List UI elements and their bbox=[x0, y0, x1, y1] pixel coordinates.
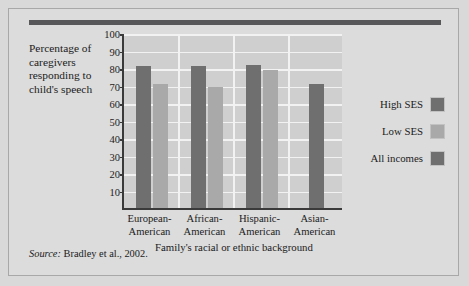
plot-area-wrapper: 102030405060708090100 bbox=[122, 35, 342, 210]
y-axis-tick-label: 20 bbox=[110, 170, 121, 181]
bar bbox=[153, 84, 168, 208]
source-prefix: Source: bbox=[29, 248, 61, 259]
bar bbox=[136, 66, 151, 208]
y-axis-tick-label: 40 bbox=[110, 135, 121, 146]
bar-group bbox=[179, 35, 234, 208]
figure-panel: Percentage of caregivers responding to c… bbox=[8, 8, 459, 276]
x-axis-category-label: Asian-American bbox=[284, 213, 346, 238]
y-axis-tick-label: 90 bbox=[110, 47, 121, 58]
legend-swatch bbox=[430, 97, 445, 112]
bar bbox=[191, 66, 206, 208]
y-axis-label: Percentage of caregivers responding to c… bbox=[29, 42, 115, 96]
y-axis-tick-label: 60 bbox=[110, 100, 121, 111]
y-axis-tick-label: 70 bbox=[110, 82, 121, 93]
bar bbox=[309, 84, 324, 208]
legend-label: Low SES bbox=[382, 125, 423, 137]
bar bbox=[263, 70, 278, 208]
source-citation: Bradley et al., 2002. bbox=[64, 248, 148, 259]
x-axis-category-labels: European-AmericanAfrican-AmericanHispani… bbox=[122, 213, 346, 241]
legend-label: All incomes bbox=[371, 152, 423, 164]
y-axis-tick-label: 30 bbox=[110, 152, 121, 163]
legend-label: High SES bbox=[380, 98, 423, 110]
legend-swatch bbox=[430, 124, 445, 139]
x-axis-category-label: European-American bbox=[119, 213, 181, 238]
y-axis-tick-label: 50 bbox=[110, 117, 121, 128]
category-label-line: Asian- bbox=[284, 213, 346, 226]
category-label-line: American bbox=[119, 226, 181, 239]
legend-item: Low SES bbox=[361, 120, 445, 142]
category-label-line: American bbox=[284, 226, 346, 239]
category-label-line: African- bbox=[174, 213, 236, 226]
legend-swatch bbox=[430, 151, 445, 166]
y-axis-tick-label: 10 bbox=[110, 187, 121, 198]
y-axis-tick-label: 80 bbox=[110, 65, 121, 76]
top-rule-divider bbox=[29, 20, 441, 25]
bar-group bbox=[289, 35, 344, 208]
legend-item: All incomes bbox=[361, 147, 445, 169]
x-axis-category-label: Hispanic-American bbox=[229, 213, 291, 238]
bar-group bbox=[234, 35, 289, 208]
category-label-line: European- bbox=[119, 213, 181, 226]
bar bbox=[208, 87, 223, 208]
legend-item: High SES bbox=[361, 93, 445, 115]
plot-area: 102030405060708090100 bbox=[122, 35, 342, 210]
y-axis-tick-label: 100 bbox=[104, 30, 120, 41]
bar-group bbox=[124, 35, 179, 208]
source-note: Source: Bradley et al., 2002. bbox=[29, 248, 148, 259]
category-label-line: American bbox=[229, 226, 291, 239]
category-label-line: American bbox=[174, 226, 236, 239]
chart-legend: High SESLow SESAll incomes bbox=[361, 93, 445, 174]
bar bbox=[246, 65, 261, 209]
category-label-line: Hispanic- bbox=[229, 213, 291, 226]
x-axis-title: Family's racial or ethnic background bbox=[122, 241, 346, 253]
x-axis-category-label: African-American bbox=[174, 213, 236, 238]
